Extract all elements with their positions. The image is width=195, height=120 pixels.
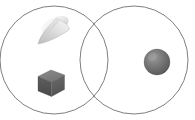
venn-diagram-canvas: [0, 0, 195, 120]
venn-shapes-figure: Two overlapping circles containing 3D ge…: [0, 0, 195, 120]
shape-sphere: [144, 49, 170, 75]
set-circle-right: [80, 6, 188, 114]
shape-cube: [38, 70, 65, 97]
shape-cone: [38, 12, 71, 44]
